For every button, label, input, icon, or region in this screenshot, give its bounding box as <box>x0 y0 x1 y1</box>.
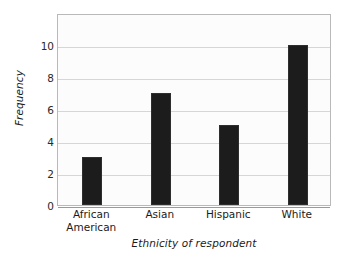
y-tick-label-10: 10 <box>30 41 54 52</box>
x-tick-label-african-american: African American <box>52 208 130 233</box>
x-axis-title: Ethnicity of respondent <box>57 237 331 249</box>
x-axis-tick-labels: African AmericanAsianHispanicWhite <box>57 208 331 238</box>
y-axis-tick-labels: 0246810 <box>30 12 54 206</box>
y-tick-label-6: 6 <box>30 105 54 116</box>
bar-hispanic <box>219 125 239 205</box>
bar-asian <box>151 93 171 205</box>
y-tick-label-4: 4 <box>30 137 54 148</box>
bar-chart-figure: Frequency 0246810 African AmericanAsianH… <box>0 0 348 257</box>
y-tick-label-0: 0 <box>30 201 54 212</box>
x-tick-label-hispanic: Hispanic <box>189 208 267 221</box>
x-tick-label-white: White <box>258 208 336 221</box>
bar-white <box>288 45 308 205</box>
bar-african-american <box>82 157 102 205</box>
y-axis-title: Frequency <box>13 53 25 143</box>
y-tick-label-2: 2 <box>30 169 54 180</box>
plot-area <box>57 14 331 206</box>
x-tick-label-asian: Asian <box>121 208 199 221</box>
bar-series <box>58 15 330 205</box>
y-tick-label-8: 8 <box>30 73 54 84</box>
